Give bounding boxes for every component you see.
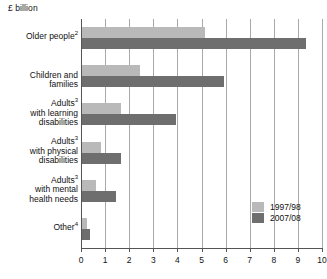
- x-axis-tick-label: 10: [317, 255, 326, 265]
- y-axis-line: [81, 19, 82, 248]
- x-axis-tick: [202, 248, 203, 252]
- bar: [82, 180, 96, 191]
- gridline: [105, 19, 106, 248]
- x-axis-tick: [177, 248, 178, 252]
- x-axis-tick-label: 8: [271, 255, 276, 265]
- legend-swatch-1997-98: [252, 202, 264, 212]
- gridline: [153, 19, 154, 248]
- x-axis-tick: [322, 248, 323, 252]
- gridline: [322, 19, 323, 248]
- bar: [82, 153, 121, 164]
- axis-unit-label: £ billion: [8, 3, 38, 13]
- x-axis-tick-label: 4: [175, 255, 180, 265]
- x-axis-tick-label: 6: [223, 255, 228, 265]
- bar: [82, 27, 205, 38]
- gridline: [177, 19, 178, 248]
- x-axis-tick-label: 3: [151, 255, 156, 265]
- bar: [82, 38, 306, 49]
- bar: [82, 229, 90, 240]
- category-label: Adults3 with learningdisabilities: [0, 99, 78, 128]
- legend-swatch-2007-08: [252, 213, 264, 223]
- bar: [82, 218, 87, 229]
- x-axis-tick: [250, 248, 251, 252]
- legend-label-2007-08: 2007/08: [270, 213, 301, 223]
- x-axis-tick: [274, 248, 275, 252]
- category-label: Adults3 with mentalhealth needs: [0, 176, 78, 205]
- x-axis-tick: [298, 248, 299, 252]
- legend-item: 2007/08: [252, 212, 318, 223]
- x-axis-tick: [105, 248, 106, 252]
- gridline: [250, 19, 251, 248]
- legend-label-1997-98: 1997/98: [270, 202, 301, 212]
- legend-item: 1997/98: [252, 201, 318, 212]
- bar: [82, 103, 121, 114]
- bar: [82, 114, 176, 125]
- gridline: [226, 19, 227, 248]
- bar: [82, 142, 101, 153]
- gridline: [202, 19, 203, 248]
- x-axis-tick: [129, 248, 130, 252]
- x-axis-tick: [81, 248, 82, 252]
- gridline: [129, 19, 130, 248]
- x-axis-tick-label: 0: [79, 255, 84, 265]
- x-axis-tick-label: 9: [296, 255, 301, 265]
- category-label: Other4: [0, 223, 78, 233]
- x-axis-tick: [226, 248, 227, 252]
- x-axis-tick-label: 2: [127, 255, 132, 265]
- x-axis-tick-label: 7: [247, 255, 252, 265]
- bar: [82, 191, 116, 202]
- category-label: Children and families: [0, 71, 78, 90]
- category-label: Older people2: [0, 32, 78, 42]
- bar: [82, 65, 140, 76]
- legend: 1997/98 2007/08: [252, 201, 318, 223]
- bar: [82, 76, 224, 87]
- x-axis-tick: [153, 248, 154, 252]
- x-axis-tick-label: 5: [199, 255, 204, 265]
- x-axis-tick-label: 1: [103, 255, 108, 265]
- category-label: Adults3 with physicaldisabilities: [0, 137, 78, 166]
